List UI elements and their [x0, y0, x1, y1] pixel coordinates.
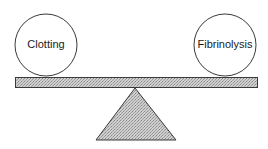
right-weight-label: Fibrinolysis [197, 38, 253, 50]
balance-beam [16, 78, 258, 88]
right-weight-fibrinolysis: Fibrinolysis [194, 14, 256, 76]
fulcrum-triangle [96, 88, 176, 140]
balance-diagram: Clotting Fibrinolysis [0, 0, 268, 149]
left-weight-label: Clotting [27, 38, 64, 50]
left-weight-clotting: Clotting [15, 14, 77, 76]
